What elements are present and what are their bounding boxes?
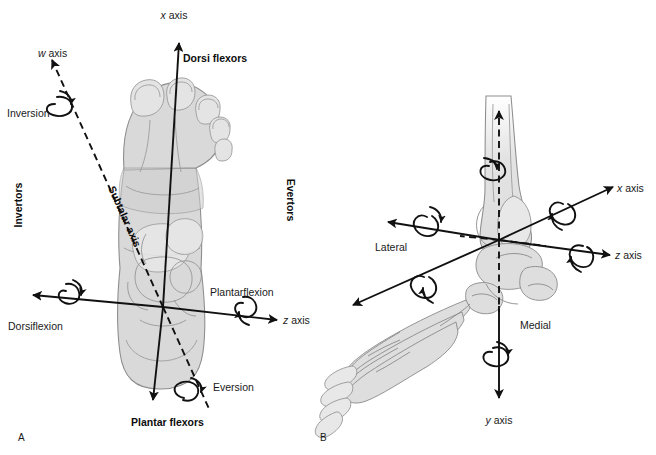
label-y-axis-b: y axis [485, 414, 513, 426]
rotation-arrow-y-lower [483, 342, 508, 366]
label-w-axis: w axis [38, 47, 67, 59]
label-lateral: Lateral [375, 241, 407, 253]
label-medial: Medial [520, 319, 551, 331]
label-dorsi-flexors: Dorsi flexors [183, 52, 247, 64]
label-dorsiflexion: Dorsiflexion [8, 320, 63, 332]
label-eversion: Eversion [213, 381, 254, 393]
label-plantarflexion: Plantarflexion [210, 286, 274, 298]
label-x-axis-a: x axis [160, 9, 188, 21]
anatomical-figure: x axis Dorsi flexors w axis Inversion In… [0, 0, 656, 455]
figure-canvas: x axis Dorsi flexors w axis Inversion In… [0, 0, 656, 455]
panel-b: x axis z axis Lateral Medial y axis B [315, 96, 644, 443]
panel-a: x axis Dorsi flexors w axis Inversion In… [7, 9, 310, 443]
rotation-arrow-x-negative [411, 276, 436, 303]
label-invertors: Invertors [12, 182, 24, 227]
label-evertors: Evertors [285, 179, 297, 222]
rotation-arrow-x-positive [550, 203, 575, 230]
panel-label-a: A [18, 432, 25, 443]
panel-label-b: B [320, 432, 327, 443]
label-z-axis-b: z axis [614, 249, 642, 261]
rotation-arrow-z-negative [414, 207, 441, 236]
label-plantar-flexors: Plantar flexors [131, 416, 204, 428]
rotation-arrow-plantarflexion [235, 297, 256, 325]
foot-ankle-illustration [315, 96, 557, 438]
label-z-axis-a: z axis [282, 314, 310, 326]
label-x-axis-b: x axis [616, 182, 644, 194]
label-inversion: Inversion [7, 107, 50, 119]
rotation-arrow-inversion [47, 91, 72, 116]
rotation-arrow-dorsiflexion [59, 280, 82, 304]
